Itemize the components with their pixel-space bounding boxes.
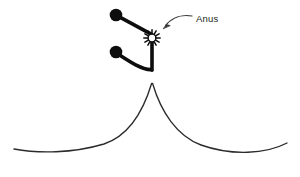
- leader-arrow-curve: [166, 16, 193, 26]
- gluteal-cleft-group: [14, 84, 287, 153]
- lower-lead-line: [120, 55, 151, 70]
- anatomical-diagram-svg: Anus: [0, 0, 300, 177]
- anus-label: Anus: [196, 13, 219, 24]
- anus-leader-arrow: [163, 16, 192, 29]
- starburst-core: [148, 34, 156, 42]
- gluteal-cleft-left-curve: [14, 84, 152, 152]
- arrowhead-icon: [163, 25, 170, 29]
- upper-probe-dot: [110, 9, 123, 22]
- upper-lead-line: [120, 17, 151, 34]
- gluteal-cleft-right-curve: [153, 84, 287, 153]
- diagram-canvas: Anus: [0, 0, 300, 177]
- lower-probe-dot: [110, 46, 123, 59]
